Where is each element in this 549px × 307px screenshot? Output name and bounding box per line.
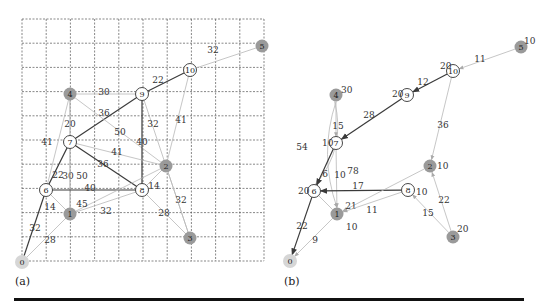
edge-7-6	[317, 149, 334, 185]
edge-weight-label: 11	[474, 54, 485, 64]
edge-weight-label: 36	[97, 159, 109, 169]
node-label: 5	[518, 43, 523, 52]
edge-weight-label: 40	[136, 137, 148, 147]
bottom-rule	[14, 298, 524, 301]
edge-weight-label: 32	[100, 206, 111, 216]
node-label: 8	[405, 186, 410, 195]
node-label: 10	[185, 66, 195, 75]
node-label: 2	[163, 162, 168, 171]
edge-weight-label: 30	[62, 171, 74, 181]
node-label: 5	[259, 42, 264, 51]
caption-a: (a)	[15, 275, 30, 288]
edge-weight-label: 32	[175, 195, 186, 205]
edge-weight-label: 17	[352, 181, 364, 191]
edges-panel-b: 111228361554786101721112215229	[292, 49, 515, 256]
node-label: 3	[187, 234, 192, 243]
edge-weight-label: 22	[296, 221, 307, 231]
edge-weight-label: 32	[207, 45, 218, 55]
edge-weight-label: 22	[438, 195, 449, 205]
edge-weight-label: 41	[175, 115, 186, 125]
node-value: 10	[437, 161, 449, 171]
node-label: 1	[334, 210, 339, 219]
node-label: 3	[450, 233, 455, 242]
node-label: 8	[139, 186, 144, 195]
edge-weight-label: 40	[84, 183, 96, 193]
graph-diagram: 3222303650403241204141362230504045321432…	[0, 0, 549, 307]
node-label: 7	[333, 139, 338, 148]
edge-weight-label: 14	[148, 181, 160, 191]
edge-6-1	[319, 196, 333, 210]
edge-5-10	[459, 49, 515, 69]
nodes-panel-b: 01102103204305106207108109201020	[283, 36, 536, 268]
edge-weight-label: 50	[114, 127, 126, 137]
node-value: 20	[298, 186, 310, 196]
edge-weight-label: 41	[41, 137, 52, 147]
node-value: 10	[416, 187, 428, 197]
node-label: 9	[139, 90, 144, 99]
node-label: 7	[67, 138, 72, 147]
edge-weight-label: 10	[334, 170, 346, 180]
edge-weight-label: 36	[437, 120, 449, 130]
edge-weight-label: 41	[111, 147, 122, 157]
edge-weight-label: 28	[363, 110, 375, 120]
node-label: 6	[311, 187, 316, 196]
edge-weight-label: 22	[152, 75, 163, 85]
edge-weight-label: 28	[44, 235, 56, 245]
edge-weight-label: 78	[347, 166, 359, 176]
node-value: 30	[341, 85, 353, 95]
edge-weight-label: 30	[98, 87, 110, 97]
edge-weight-label: 28	[158, 208, 170, 218]
node-value: 10	[322, 138, 334, 148]
edges-panel-a: 3222303650403241204141362230504045321432…	[22, 45, 262, 262]
node-label: 4	[333, 91, 338, 100]
edge-weight-label: 14	[44, 202, 56, 212]
node-label: 2	[427, 162, 432, 171]
edge-5-10	[190, 46, 262, 70]
edge-7-6	[46, 142, 70, 190]
node-label: 4	[67, 90, 72, 99]
edge-10-2	[432, 77, 452, 159]
caption-b: (b)	[284, 275, 300, 288]
edge-weight-label: 12	[417, 77, 428, 87]
node-label: 1	[67, 210, 72, 219]
edge-weight-label: 11	[366, 205, 377, 215]
edge-weight-label: 6	[322, 169, 328, 179]
node-label: 0	[19, 258, 24, 267]
edge-9-7	[70, 94, 142, 142]
node-value: 20	[457, 224, 469, 234]
edge-4-1	[327, 101, 336, 207]
edge-weight-label: 50	[76, 171, 88, 181]
node-value: 10	[346, 222, 358, 232]
edge-weight-label: 15	[422, 208, 434, 218]
edge-weight-label: 54	[296, 142, 308, 152]
edge-10-9	[142, 70, 190, 94]
node-value: 20	[440, 61, 452, 71]
edge-weight-label: 9	[312, 235, 318, 245]
edge-weight-label: 32	[29, 223, 40, 233]
node-value: 20	[392, 89, 404, 99]
edge-weight-label: 45	[76, 199, 88, 209]
edge-weight-label: 32	[147, 119, 158, 129]
node-label: 6	[43, 186, 48, 195]
node-value: 10	[524, 36, 536, 46]
node-label: 0	[287, 257, 292, 266]
node-label: 9	[404, 91, 409, 100]
